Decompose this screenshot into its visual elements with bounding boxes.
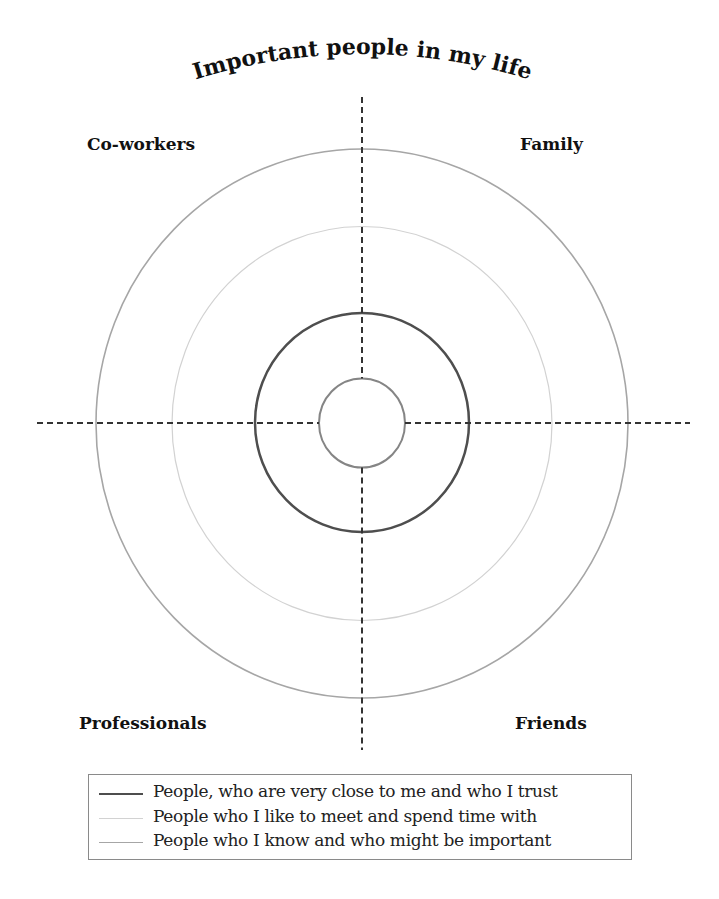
- legend-label: People who I know and who might be impor…: [153, 830, 551, 850]
- quadrant-label-friends: Friends: [515, 713, 587, 733]
- legend-swatch-dark-line: [99, 793, 143, 795]
- legend-item-meet-spend-time: People who I like to meet and spend time…: [89, 806, 631, 832]
- quadrant-label-coworkers: Co-workers: [87, 134, 195, 154]
- legend-item-close-trusted: People, who are very close to me and who…: [89, 781, 631, 807]
- legend: People, who are very close to me and who…: [88, 774, 632, 860]
- quadrant-label-family: Family: [520, 134, 583, 154]
- quadrant-axes: [37, 97, 690, 750]
- legend-label: People who I like to meet and spend time…: [153, 806, 537, 826]
- legend-label: People, who are very close to me and who…: [153, 781, 558, 801]
- legend-item-know-might-be-important: People who I know and who might be impor…: [89, 830, 631, 856]
- legend-swatch-light-line: [99, 818, 143, 819]
- diagram-title: Important people in my life: [189, 33, 535, 84]
- circle-inner-self: [319, 379, 405, 468]
- diagram-title-text: Important people in my life: [189, 33, 535, 84]
- quadrant-label-professionals: Professionals: [79, 713, 207, 733]
- legend-swatch-medium-line: [99, 842, 143, 843]
